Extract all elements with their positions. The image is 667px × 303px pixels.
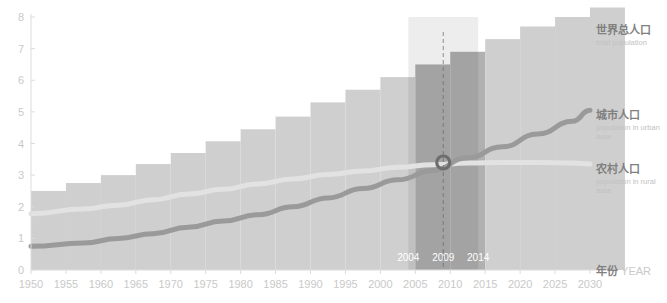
highlight-year-label-2014: 2014 bbox=[467, 252, 490, 263]
legend-item-year-axis: 年份 YEAR bbox=[596, 262, 667, 278]
legend-item-rural-population: 农村人口 population in rural area bbox=[596, 163, 667, 195]
y-tick-label-1: 1 bbox=[18, 232, 24, 244]
x-tick-label-1950: 1950 bbox=[19, 278, 43, 290]
bar-1960 bbox=[101, 175, 136, 270]
x-tick-label-2000: 2000 bbox=[368, 278, 392, 290]
bar-2020 bbox=[520, 26, 555, 270]
y-tick-label-3: 3 bbox=[18, 169, 24, 181]
year-label-en: YEAR bbox=[621, 265, 651, 277]
x-tick-label-1985: 1985 bbox=[263, 278, 287, 290]
x-tick-label-1980: 1980 bbox=[228, 278, 252, 290]
y-tick-label-5: 5 bbox=[18, 106, 24, 118]
x-tick-label-2030: 2030 bbox=[578, 278, 602, 290]
y-tick-label-4: 4 bbox=[18, 138, 24, 150]
y-tick-label-0: 0 bbox=[18, 264, 24, 276]
x-tick-label-2005: 2005 bbox=[403, 278, 427, 290]
x-tick-label-2020: 2020 bbox=[508, 278, 532, 290]
legend-item-urban-population: 城市人口 population in urban area bbox=[596, 109, 667, 141]
x-axis-ticks: 1950195519601965197019751980198519901995… bbox=[19, 270, 602, 290]
x-tick-label-1990: 1990 bbox=[298, 278, 322, 290]
chart-canvas: 012345678 195019551960196519701975198019… bbox=[0, 0, 667, 303]
bar-1950 bbox=[31, 191, 66, 270]
bar-2015 bbox=[485, 39, 520, 270]
bar-1955 bbox=[66, 183, 101, 270]
x-tick-label-1960: 1960 bbox=[89, 278, 113, 290]
bar-1975 bbox=[206, 141, 241, 270]
legend-rural-label-cn: 农村人口 bbox=[596, 163, 667, 176]
y-tick-label-6: 6 bbox=[18, 74, 24, 86]
legend-rural-label-en: population in rural area bbox=[596, 177, 667, 195]
x-tick-label-1975: 1975 bbox=[193, 278, 217, 290]
x-tick-label-1965: 1965 bbox=[124, 278, 148, 290]
x-tick-label-1955: 1955 bbox=[54, 278, 78, 290]
x-tick-label-2015: 2015 bbox=[473, 278, 497, 290]
y-tick-label-8: 8 bbox=[18, 11, 24, 23]
x-tick-label-2010: 2010 bbox=[438, 278, 462, 290]
highlight-year-label-2004: 2004 bbox=[397, 252, 420, 263]
bar-2025 bbox=[555, 17, 590, 270]
bar-1970 bbox=[171, 153, 206, 270]
legend-urban-label-cn: 城市人口 bbox=[596, 109, 667, 122]
bar-1985 bbox=[276, 117, 311, 270]
bar-1980 bbox=[241, 129, 276, 270]
bars-group bbox=[31, 8, 625, 270]
bar-1995 bbox=[345, 90, 380, 270]
y-tick-label-7: 7 bbox=[18, 43, 24, 55]
y-tick-label-2: 2 bbox=[18, 201, 24, 213]
year-label-cn: 年份 bbox=[596, 265, 618, 277]
legend-item-total-population: 世界总人口 total population bbox=[596, 24, 667, 47]
x-tick-label-2025: 2025 bbox=[543, 278, 567, 290]
bar-1965 bbox=[136, 164, 171, 270]
legend-total-label-en: total population bbox=[596, 38, 667, 47]
x-tick-label-1995: 1995 bbox=[333, 278, 357, 290]
population-chart: 012345678 195019551960196519701975198019… bbox=[0, 0, 667, 303]
x-tick-label-1970: 1970 bbox=[159, 278, 183, 290]
legend-urban-label-en: population in urban area bbox=[596, 123, 667, 141]
bar-1990 bbox=[311, 102, 346, 270]
legend-total-label-cn: 世界总人口 bbox=[596, 24, 667, 37]
